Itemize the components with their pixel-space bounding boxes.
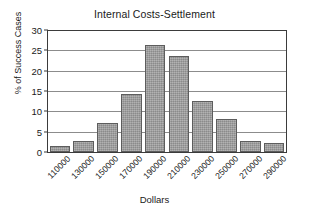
- bar[interactable]: [216, 119, 236, 152]
- y-tick-label: 20: [31, 65, 42, 76]
- bar[interactable]: [50, 146, 70, 153]
- y-tick-label: 10: [31, 106, 42, 117]
- plot-area: 051015202530: [47, 30, 287, 153]
- chart-container: Internal Costs-Settlement % of Success C…: [0, 0, 309, 215]
- x-tick-slot: 230000: [191, 155, 215, 195]
- x-tick-label: 190000: [141, 154, 168, 181]
- x-tick-label: 210000: [165, 154, 192, 181]
- x-tick-slot: 130000: [71, 155, 95, 195]
- bar[interactable]: [145, 45, 165, 152]
- x-tick-label: 250000: [213, 154, 240, 181]
- x-tick-label: 170000: [117, 154, 144, 181]
- x-axis-tick-labels: 1100001300001500001700001900002100002300…: [47, 155, 287, 195]
- x-axis-title: Dollars: [0, 194, 309, 205]
- x-tick-slot: 250000: [215, 155, 239, 195]
- x-tick-slot: 270000: [239, 155, 263, 195]
- bar-slot: [48, 30, 72, 152]
- x-tick-slot: 210000: [167, 155, 191, 195]
- bar-slot: [215, 30, 239, 152]
- bar[interactable]: [121, 94, 141, 152]
- x-tick-label: 130000: [69, 154, 96, 181]
- bar[interactable]: [264, 143, 284, 152]
- bar-slot: [143, 30, 167, 152]
- x-tick-slot: 170000: [119, 155, 143, 195]
- x-tick-slot: 110000: [47, 155, 71, 195]
- x-tick-slot: 290000: [263, 155, 287, 195]
- bar[interactable]: [97, 123, 117, 152]
- bar-slot: [72, 30, 96, 152]
- bar-series: [48, 30, 286, 152]
- bar-slot: [191, 30, 215, 152]
- chart-title: Internal Costs-Settlement: [0, 8, 309, 20]
- x-tick-label: 110000: [45, 154, 72, 181]
- y-tick-label: 15: [31, 86, 42, 97]
- bar[interactable]: [169, 56, 189, 152]
- x-tick-label: 270000: [237, 154, 264, 181]
- bar[interactable]: [73, 141, 93, 152]
- x-tick-label: 230000: [189, 154, 216, 181]
- y-tick-label: 30: [31, 25, 42, 36]
- bar[interactable]: [192, 101, 212, 152]
- x-tick-slot: 190000: [143, 155, 167, 195]
- y-tick-label: 5: [37, 126, 42, 137]
- x-tick-label: 290000: [261, 154, 288, 181]
- bar-slot: [119, 30, 143, 152]
- bar-slot: [167, 30, 191, 152]
- y-tick-label: 25: [31, 45, 42, 56]
- y-axis-title: % of Success Cases: [13, 0, 23, 113]
- bar[interactable]: [240, 141, 260, 152]
- bar-slot: [96, 30, 120, 152]
- y-tick-label: 0: [37, 147, 42, 158]
- x-tick-label: 150000: [93, 154, 120, 181]
- bar-slot: [262, 30, 286, 152]
- bar-slot: [238, 30, 262, 152]
- x-tick-slot: 150000: [95, 155, 119, 195]
